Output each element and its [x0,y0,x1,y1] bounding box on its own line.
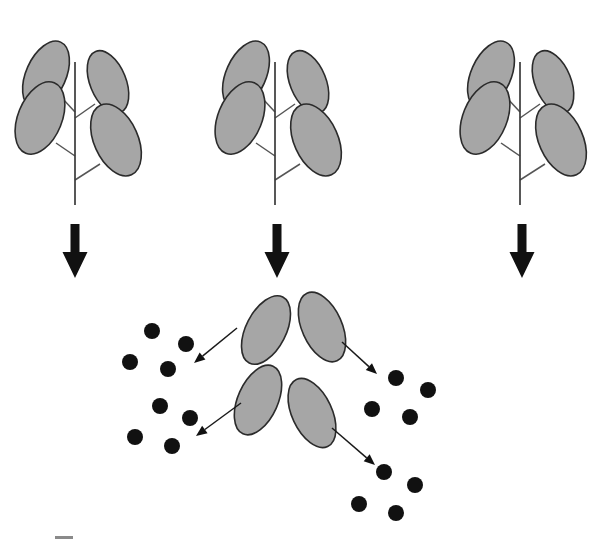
dot-cluster-lower-right-dot-1 [376,464,392,480]
thick-arrow-3 [510,224,535,278]
detached-leaf-upper-left [231,288,300,372]
plant-3-petiole-lower-right [520,164,545,180]
dot-cluster-lower-left-dot-2 [182,410,198,426]
dot-cluster-lower-left-dot-3 [127,429,143,445]
thin-arrow-to-cluster-lower-left-head [196,426,208,436]
plant-2-petiole-lower-right [275,164,300,180]
plant-1 [5,34,151,205]
thick-arrow-2 [265,224,290,278]
thin-arrow-to-cluster-upper-right [342,342,377,374]
dot-clusters-layer [122,323,436,521]
dot-cluster-lower-right [351,464,423,521]
plant-3 [450,34,596,205]
thick-arrows-layer [63,224,535,278]
dot-cluster-upper-right-dot-4 [402,409,418,425]
dot-cluster-upper-right-dot-1 [388,370,404,386]
dot-cluster-upper-right [364,370,436,425]
thin-arrow-to-cluster-upper-left-shaft [203,328,237,356]
dot-cluster-lower-right-dot-3 [351,496,367,512]
plant-1-petiole-mid-left [56,143,75,156]
dot-cluster-upper-left-dot-4 [160,361,176,377]
detached-leaf-lower-right [278,371,346,455]
thick-arrow-1 [63,224,88,278]
thin-arrows-layer [194,328,377,465]
dot-cluster-lower-right-dot-4 [388,505,404,521]
thin-arrow-to-cluster-upper-left [194,328,237,363]
caption-rule [55,536,73,539]
dot-cluster-upper-left-dot-2 [178,336,194,352]
dot-cluster-upper-right-dot-2 [420,382,436,398]
plant-3-petiole-mid-left [501,143,520,156]
figure-root [0,0,615,540]
plant-1-petiole-lower-right [75,164,100,180]
plant-2 [205,34,351,205]
plants-layer [5,34,596,205]
dot-cluster-upper-right-dot-3 [364,401,380,417]
thin-arrow-to-cluster-lower-right [332,428,375,465]
dot-cluster-lower-left-dot-1 [152,398,168,414]
dot-cluster-upper-left-dot-3 [122,354,138,370]
dot-cluster-lower-left-dot-4 [164,438,180,454]
thin-arrow-to-cluster-upper-left-head [194,352,205,363]
dot-cluster-upper-left [122,323,194,377]
thin-arrow-to-cluster-upper-right-shaft [342,342,369,367]
thin-arrow-to-cluster-lower-right-shaft [332,428,367,458]
detached-leaf-upper-right [289,285,356,369]
leaf-sampling-diagram [0,0,615,540]
dot-cluster-upper-left-dot-1 [144,323,160,339]
dot-cluster-lower-left [127,398,198,454]
detached-leaf-lower-left [225,358,292,442]
plant-2-petiole-mid-left [256,143,275,156]
dot-cluster-lower-right-dot-2 [407,477,423,493]
detached-leaves-layer [225,285,356,455]
